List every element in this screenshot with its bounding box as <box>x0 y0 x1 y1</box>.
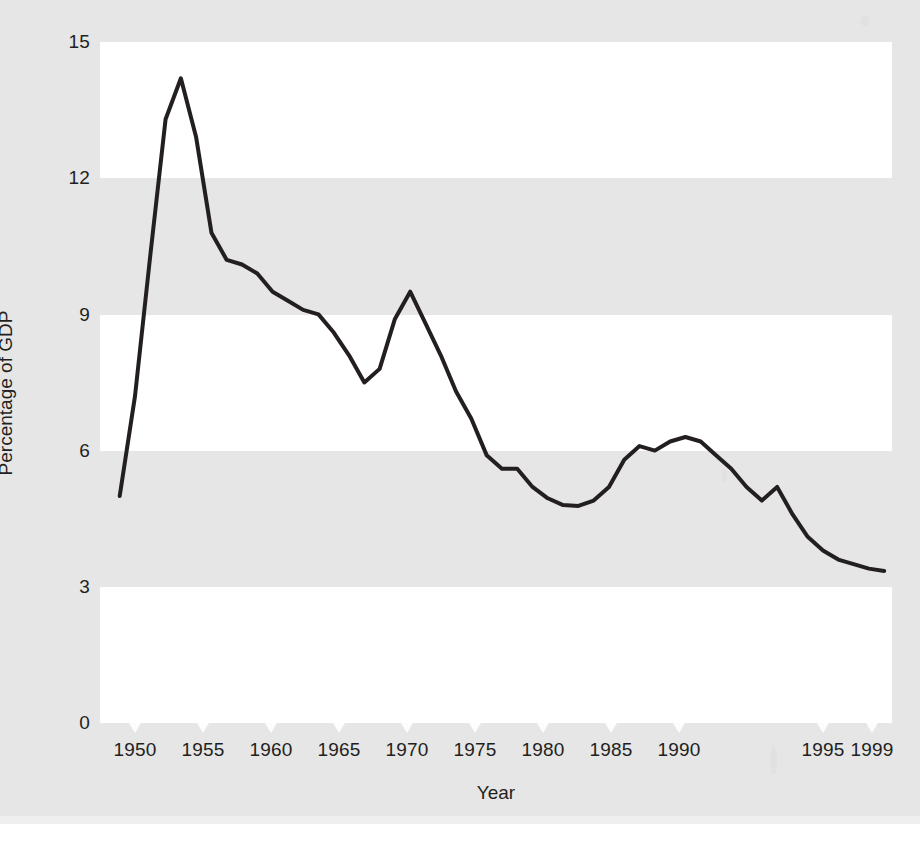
x-tick-label: 1950 <box>113 739 156 761</box>
triangle-down-icon <box>469 723 481 733</box>
triangle-down-icon <box>866 723 878 733</box>
series-line-chart <box>100 42 892 723</box>
x-tick-label: 1975 <box>453 739 496 761</box>
y-axis: 15 12 9 6 3 0 Percentage of GDP <box>0 0 100 844</box>
y-tick-label: 9 <box>79 304 90 326</box>
x-tick-label: 1995 <box>801 739 844 761</box>
x-tick-label: 1985 <box>589 739 632 761</box>
triangle-down-icon <box>817 723 829 733</box>
triangle-down-icon <box>265 723 277 733</box>
series-polyline-percentage-of-gdp <box>120 78 884 571</box>
x-tick-label: 1955 <box>181 739 224 761</box>
x-axis-title: Year <box>100 782 892 804</box>
x-tick-label: 1960 <box>249 739 292 761</box>
y-tick-label: 15 <box>68 31 90 53</box>
y-axis-title: Percentage of GDP <box>0 173 17 613</box>
y-tick-label: 6 <box>79 440 90 462</box>
x-tick-label: 1990 <box>657 739 700 761</box>
plot-area <box>100 42 892 723</box>
triangle-down-icon <box>197 723 209 733</box>
triangle-down-icon <box>605 723 617 733</box>
triangle-down-icon <box>537 723 549 733</box>
y-tick-label: 3 <box>79 576 90 598</box>
x-tick-label: 1965 <box>317 739 360 761</box>
x-axis: 1950 1955 1960 1965 1970 1975 1980 1985 … <box>100 723 892 823</box>
x-tick-label: 1980 <box>521 739 564 761</box>
triangle-down-icon <box>673 723 685 733</box>
x-tick-label: 1970 <box>385 739 428 761</box>
y-tick-label: 0 <box>79 712 90 734</box>
triangle-down-icon <box>129 723 141 733</box>
triangle-down-icon <box>401 723 413 733</box>
chart-figure: 15 12 9 6 3 0 Percentage of GDP 1950 195… <box>0 0 920 844</box>
x-tick-label: 1999 <box>850 739 893 761</box>
triangle-down-icon <box>333 723 345 733</box>
y-tick-label: 12 <box>68 167 90 189</box>
